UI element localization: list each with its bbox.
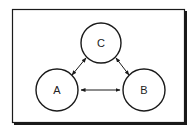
node-b-label: B: [140, 84, 147, 96]
node-b: B: [123, 69, 165, 111]
node-a: A: [36, 69, 78, 111]
node-c-label: C: [97, 37, 105, 49]
node-a-label: A: [53, 84, 61, 96]
node-c: C: [81, 23, 121, 63]
diagram-canvas: C A B: [0, 0, 196, 130]
